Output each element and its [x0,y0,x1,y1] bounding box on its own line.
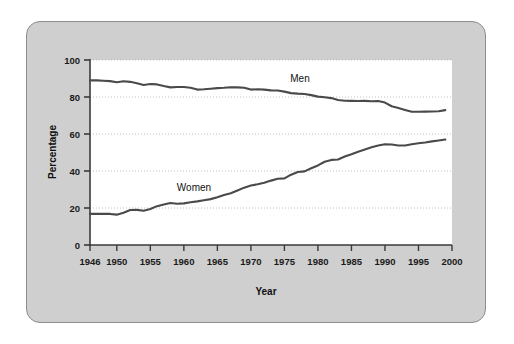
x-tick-label-2000: 2000 [441,256,462,267]
y-axis-ticks-group [84,60,90,245]
plot-background-group [90,60,452,245]
y-tick-label-0: 0 [75,240,80,251]
series-annotation-men: Men [290,73,309,84]
x-tick-label-1946: 1946 [79,256,100,267]
line-chart: 1946195019551960196519701975198019851990… [0,0,514,344]
y-axis-tick-labels-group: 020406080100 [64,55,80,251]
x-tick-label-1990: 1990 [374,256,395,267]
x-tick-label-1995: 1995 [408,256,430,267]
x-tick-label-1960: 1960 [173,256,194,267]
y-tick-label-80: 80 [69,92,80,103]
x-tick-label-1965: 1965 [207,256,229,267]
x-tick-label-1980: 1980 [307,256,328,267]
x-axis-title: Year [255,286,276,297]
y-tick-label-40: 40 [69,166,80,177]
series-annotation-women: Women [177,182,211,193]
plot-area-background [90,60,452,245]
x-axis-ticks-group [90,245,452,251]
x-tick-label-1975: 1975 [274,256,296,267]
y-tick-label-60: 60 [69,129,80,140]
y-axis-title: Percentage [47,125,58,179]
x-tick-label-1970: 1970 [240,256,261,267]
x-tick-label-1985: 1985 [341,256,363,267]
x-axis-tick-labels-group: 1946195019551960196519701975198019851990… [79,256,462,267]
figure-root: 1946195019551960196519701975198019851990… [0,0,514,344]
y-tick-label-20: 20 [69,203,80,214]
x-tick-label-1955: 1955 [140,256,162,267]
y-tick-label-100: 100 [64,55,80,66]
x-tick-label-1950: 1950 [106,256,127,267]
